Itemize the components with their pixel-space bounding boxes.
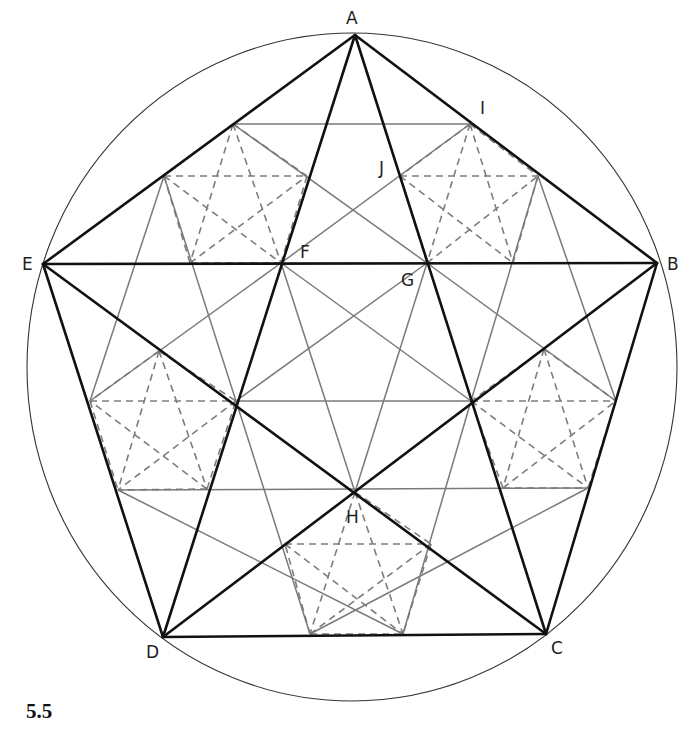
- point-label-i: I: [480, 98, 485, 118]
- point-labels: ABCDEFGHIJ: [22, 8, 679, 662]
- pentagon-and-pentagram: [43, 35, 657, 637]
- dashed-line-R5-P9: [90, 401, 207, 489]
- gray-line-P8-P5: [118, 488, 588, 490]
- pentagon-construction-diagram: ABCDEFGHIJ: [0, 0, 696, 732]
- dashed-line-R7-P4: [503, 401, 616, 488]
- gray-line-G-L: [236, 263, 427, 401]
- point-label-d: D: [146, 642, 159, 662]
- gray-line-G-H: [355, 263, 427, 492]
- thick-line-B-E: [43, 263, 657, 264]
- dashed-line-R4-R5: [159, 351, 207, 489]
- point-label-a: A: [346, 8, 358, 28]
- dashed-line-R6-P5: [544, 349, 588, 488]
- point-label-f: F: [300, 242, 310, 262]
- circumscribed-circle: [27, 33, 677, 701]
- dashed-line-P9-P8: [90, 401, 118, 490]
- gray-line-P9-F: [90, 263, 281, 401]
- dashed-line-R8-P6: [285, 544, 403, 634]
- gray-line-P1-G: [233, 124, 427, 263]
- point-label-h: H: [346, 507, 359, 527]
- dashed-line-P1-R2: [190, 124, 233, 263]
- gray-line-P10-L: [164, 176, 236, 401]
- gray-line-P3-P4: [538, 176, 616, 401]
- gray-line-P6-K: [403, 401, 471, 634]
- gray-line-P3-K: [471, 176, 538, 401]
- thick-line-B-C: [546, 263, 657, 634]
- dashed-line-I-G: [427, 124, 470, 263]
- dashed-line-R6-R7: [503, 349, 544, 488]
- gray-line-P7-L: [236, 401, 310, 634]
- point-label-e: E: [22, 254, 33, 274]
- gray-line-P4-G: [427, 263, 616, 401]
- point-label-j: J: [378, 158, 384, 178]
- dashed-line-R2-R1: [190, 176, 307, 263]
- dashed-line-K-P5: [471, 401, 588, 488]
- dashed-line-P10-F: [164, 176, 281, 263]
- gray-line-F-H: [281, 263, 355, 492]
- point-label-b: B: [667, 254, 679, 274]
- dashed-line-P1-F: [233, 124, 281, 263]
- figure-number: 5.5: [26, 699, 52, 724]
- dashed-line-J-R3: [400, 176, 513, 263]
- gray-line-F-K: [281, 263, 471, 401]
- dashed-line-R5-L: [207, 401, 236, 489]
- point-label-g: G: [401, 270, 414, 290]
- dashed-line-P7-R9: [310, 544, 431, 634]
- point-label-c: C: [551, 638, 563, 658]
- dashed-line-R4-P8: [118, 351, 159, 490]
- dashed-line-I-P3: [470, 124, 538, 176]
- dashed-line-H-R9: [355, 492, 431, 544]
- dashed-line-I-R3: [470, 124, 513, 263]
- gray-line-P10-P9: [90, 176, 164, 401]
- thick-line-C-D: [163, 634, 546, 637]
- dashed-line-L-P8: [118, 401, 236, 490]
- thick-line-E-A: [43, 35, 355, 264]
- thick-line-A-B: [355, 35, 657, 263]
- dashed-line-G-P3: [427, 176, 538, 263]
- dashed-pentagrams: [90, 124, 616, 634]
